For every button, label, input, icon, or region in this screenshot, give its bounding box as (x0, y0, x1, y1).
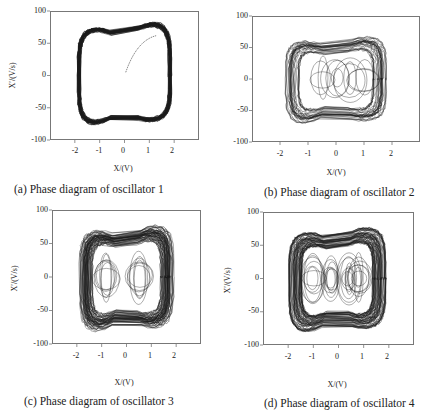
y-tick: -50 (226, 106, 248, 114)
y-tick: -50 (26, 306, 48, 314)
x-tick: 2 (167, 352, 181, 360)
caption-c: (c) Phase diagram of oscillator 3 (24, 395, 174, 407)
y-tick: 50 (226, 43, 248, 51)
y-tick: 0 (24, 71, 46, 79)
y-tick: -50 (24, 104, 46, 112)
x-tick: 0 (116, 147, 130, 155)
y-tick: -100 (226, 138, 248, 146)
y-axis-label: X′/(V/s) (8, 46, 17, 106)
caption-a: (a) Phase diagram of oscillator 1 (14, 183, 164, 195)
x-tick: 0 (329, 150, 343, 158)
x-tick: 1 (356, 150, 370, 158)
y-tick: 100 (237, 208, 259, 216)
phase-trace-d (263, 212, 414, 345)
y-tick: 50 (24, 39, 46, 47)
x-tick: 0 (330, 353, 344, 361)
caption-b: (b) Phase diagram of oscillator 2 (264, 186, 414, 198)
y-tick: 50 (237, 241, 259, 249)
x-tick: -1 (305, 353, 319, 361)
y-tick: 0 (237, 274, 259, 282)
x-tick: 2 (165, 147, 179, 155)
x-axis-label: X/(V) (104, 378, 144, 387)
y-axis-label: X′/(V/s) (10, 249, 19, 309)
phase-trace-b (252, 16, 420, 142)
y-tick: -50 (237, 307, 259, 315)
x-tick: -2 (69, 352, 83, 360)
x-tick: 0 (118, 352, 132, 360)
y-tick: 0 (226, 75, 248, 83)
x-tick: 1 (143, 352, 157, 360)
y-tick: 100 (26, 206, 48, 214)
x-tick: -1 (92, 147, 106, 155)
x-tick: 2 (384, 150, 398, 158)
x-tick: -1 (301, 150, 315, 158)
x-axis-label: X/(V) (316, 168, 356, 177)
phase-trace-a (50, 11, 199, 140)
x-tick: -2 (68, 147, 82, 155)
x-tick: 1 (141, 147, 155, 155)
x-axis-label: X/(V) (103, 164, 143, 173)
y-axis-label: X′/(V/s) (223, 251, 232, 311)
x-axis-label: X/(V) (317, 380, 357, 389)
y-tick: -100 (24, 136, 46, 144)
caption-d: (d) Phase diagram of oscillator 4 (264, 397, 414, 409)
y-tick: 100 (226, 12, 248, 20)
x-tick: -2 (281, 353, 295, 361)
x-tick: 2 (380, 353, 394, 361)
x-tick: -1 (94, 352, 108, 360)
y-tick: 0 (26, 273, 48, 281)
phase-trace-c (52, 210, 201, 344)
x-tick: -2 (273, 150, 287, 158)
y-tick: -100 (237, 341, 259, 349)
y-tick: 100 (24, 7, 46, 15)
y-tick: 50 (26, 239, 48, 247)
y-tick: -100 (26, 340, 48, 348)
x-tick: 1 (355, 353, 369, 361)
